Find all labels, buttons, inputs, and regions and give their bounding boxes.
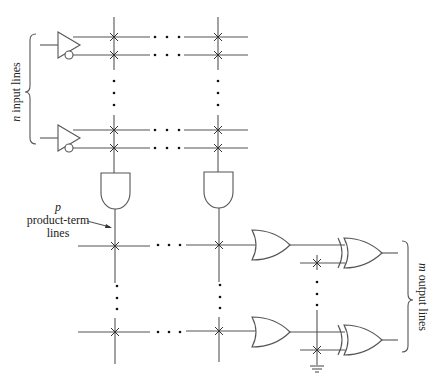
xor-gate-1	[338, 238, 398, 268]
and-gate-2	[204, 172, 233, 208]
or-fuses	[111, 241, 223, 336]
or-gate-1	[252, 230, 290, 260]
input-brace	[25, 34, 36, 144]
output-brace	[402, 241, 413, 352]
or-gate-2	[252, 317, 290, 347]
product-term-var: p	[54, 200, 61, 214]
ground-icon	[310, 366, 324, 372]
ellipsis-dots-or	[116, 244, 222, 334]
product-term-label-2: lines	[47, 226, 70, 240]
product-term-label-1: product-term	[27, 213, 90, 227]
output-lines-label: m output lines	[416, 263, 430, 331]
and-gate-1	[101, 173, 130, 209]
xor-gate-2	[338, 325, 398, 355]
pla-diagram: n input lines	[0, 0, 439, 389]
input-lines-label: n input lines	[9, 62, 23, 122]
